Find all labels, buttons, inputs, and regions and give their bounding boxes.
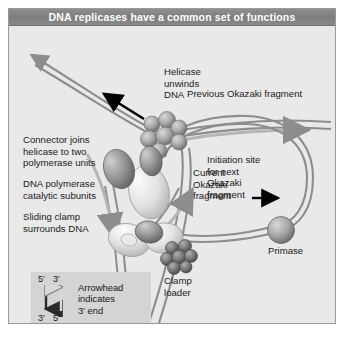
page-title: DNA replicases have a common set of func… (49, 11, 296, 23)
figure-panel: DNA replicases have a common set of func… (8, 8, 336, 324)
label-sliding-clamp: Sliding clamp surrounds DNA (23, 211, 89, 234)
legend-tick-top-left: 5′ (38, 274, 45, 284)
label-clamp-loader: Clamp loader (164, 275, 192, 298)
legend-text: Arrowhead indicates 3′ end (78, 282, 123, 316)
label-primase: Primase (268, 245, 303, 257)
diagram-canvas: Helicase unwinds DNA Connector joins hel… (9, 26, 335, 323)
label-initiation-site: Initiation site for next Okazaki fragmen… (207, 154, 260, 200)
label-dna-polymerase: DNA polymerase catalytic subunits (23, 178, 96, 201)
helicase-pointer-arrow (104, 94, 144, 119)
legend-arrows (35, 285, 79, 317)
figure-title-bar: DNA replicases have a common set of func… (9, 9, 335, 26)
primase-sphere (268, 217, 295, 244)
legend-tick-top-right: 3′ (53, 274, 60, 284)
legend-box: 5′ 3′ 3′ 5′ Arrowhead indicates 3′ end (31, 272, 151, 324)
dna-parent-strand-upper (33, 56, 162, 140)
label-connector: Connector joins helicase to two polymera… (23, 134, 96, 169)
label-previous-okazaki: Previous Okazaki fragment (187, 88, 302, 100)
